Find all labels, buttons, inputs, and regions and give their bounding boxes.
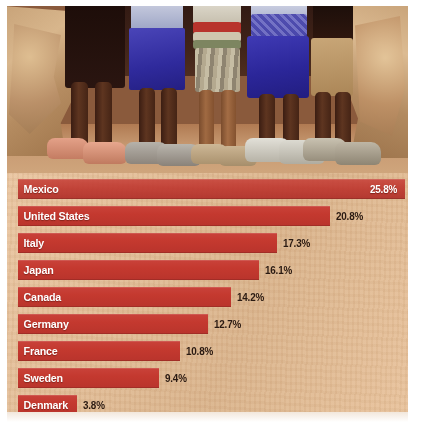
bar-chart: Mexico 25.8% United States 20.8% Italy 1…: [7, 173, 408, 412]
bar-row-italy[interactable]: Italy 17.3%: [18, 233, 312, 253]
bar-row-denmark[interactable]: Denmark 3.8%: [18, 395, 106, 412]
header-photo: [7, 6, 408, 173]
bar-italy: Italy: [18, 233, 277, 253]
bar-label-france: France: [18, 345, 58, 357]
infographic-page: Mexico 25.8% United States 20.8% Italy 1…: [0, 0, 424, 428]
bar-label-germany: Germany: [18, 318, 69, 330]
bar-sweden: Sweden: [18, 368, 159, 388]
bar-label-italy: Italy: [18, 237, 44, 249]
bar-value-canada: 14.2%: [237, 291, 264, 303]
bar-label-canada: Canada: [18, 291, 61, 303]
bar-value-france: 10.8%: [186, 345, 213, 357]
bar-row-sweden[interactable]: Sweden 9.4%: [18, 368, 188, 388]
bar-value-germany: 12.7%: [214, 318, 241, 330]
bar-label-japan: Japan: [18, 264, 54, 276]
bar-row-canada[interactable]: Canada 14.2%: [18, 287, 266, 307]
panel-bottom-edge: [7, 412, 408, 422]
bar-value-united-states: 20.8%: [336, 210, 363, 222]
bar-value-italy: 17.3%: [283, 237, 310, 249]
bar-japan: Japan: [18, 260, 259, 280]
bar-france: France: [18, 341, 180, 361]
bar-row-mexico[interactable]: Mexico 25.8%: [18, 179, 405, 199]
bar-label-denmark: Denmark: [18, 399, 68, 411]
bar-value-denmark: 3.8%: [83, 399, 105, 411]
bar-mexico: Mexico 25.8%: [18, 179, 405, 199]
bar-denmark: Denmark: [18, 395, 77, 412]
bar-label-united-states: United States: [18, 210, 90, 222]
bar-row-united-states[interactable]: United States 20.8%: [18, 206, 365, 226]
bar-value-japan: 16.1%: [265, 264, 292, 276]
bar-row-japan[interactable]: Japan 16.1%: [18, 260, 294, 280]
bar-united-states: United States: [18, 206, 330, 226]
bar-label-mexico: Mexico: [18, 183, 59, 195]
chart-panel: Mexico 25.8% United States 20.8% Italy 1…: [7, 6, 408, 412]
bar-label-sweden: Sweden: [18, 372, 63, 384]
bar-germany: Germany: [18, 314, 208, 334]
bar-value-mexico: 25.8%: [370, 183, 397, 195]
bar-value-sweden: 9.4%: [165, 372, 187, 384]
bar-canada: Canada: [18, 287, 231, 307]
bar-row-france[interactable]: France 10.8%: [18, 341, 215, 361]
bar-row-germany[interactable]: Germany 12.7%: [18, 314, 243, 334]
